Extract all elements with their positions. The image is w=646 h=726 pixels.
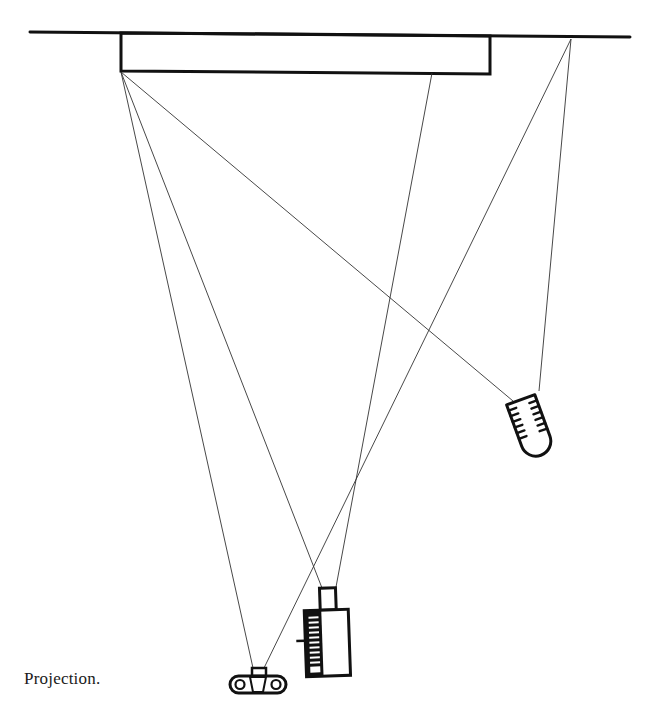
ray-screen-to-camera-left (121, 72, 253, 668)
ray-anchor-to-camera (264, 39, 571, 668)
lamp-icon (507, 395, 555, 461)
camera-icon (230, 668, 286, 693)
figure-caption: Projection. (24, 669, 100, 689)
ray-screen-to-lamp (121, 72, 513, 401)
projection-diagram (0, 0, 646, 726)
ray-anchor-to-lamp (539, 39, 571, 391)
ray-screen-to-projector-left (121, 72, 322, 588)
ray-screen-to-projector-right (336, 73, 432, 587)
rays (121, 39, 571, 668)
projector-icon (294, 587, 350, 677)
screen (121, 33, 490, 74)
